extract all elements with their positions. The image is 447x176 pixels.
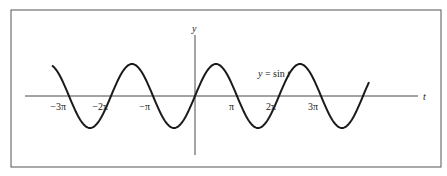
x-tick-label: −3π (50, 101, 66, 112)
x-axis-label: t (423, 91, 426, 102)
x-tick-label: 3π (308, 101, 318, 112)
x-tick-label: π (229, 101, 234, 112)
x-tick-label: 2π (266, 101, 276, 112)
figure-frame (11, 10, 441, 167)
y-axis-label: y (191, 23, 197, 34)
sine-chart: t y y = sin t −3π−2π−ππ2π3π (0, 0, 447, 176)
x-tick-label: −2π (92, 101, 108, 112)
x-tick-labels: −3π−2π−ππ2π3π (50, 101, 318, 112)
curve-label: y = sin t (257, 68, 290, 79)
x-tick-label: −π (139, 101, 150, 112)
